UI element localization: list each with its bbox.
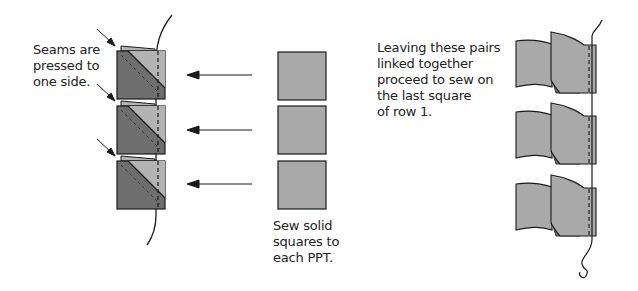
linked-pair-1 <box>516 32 596 93</box>
ppt-block-3 <box>117 156 165 209</box>
ppt-block-1 <box>117 46 165 99</box>
label-leaving-pairs: Leaving these pairs linked together proc… <box>377 40 500 120</box>
solid-squares <box>278 52 326 209</box>
linked-pair-2 <box>516 103 596 164</box>
arrows-left <box>187 71 252 188</box>
label-seams-pressed: Seams are pressed to one side. <box>33 42 100 90</box>
label-sew-solid: Sew solid squares to each PPT. <box>273 218 339 266</box>
linked-pair-3 <box>516 175 596 236</box>
ppt-block-2 <box>117 101 165 154</box>
